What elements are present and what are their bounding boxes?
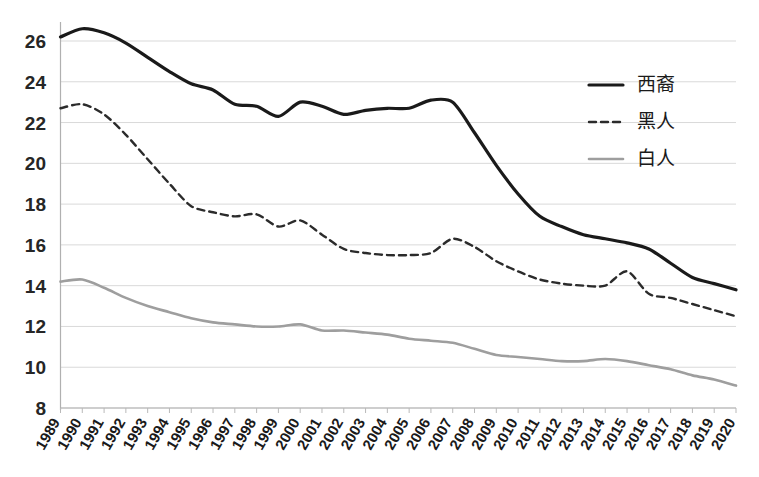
y-axis-tick-label: 8 (35, 398, 46, 419)
x-axis-tick-label: 2020 (707, 415, 738, 452)
series-line-2 (61, 279, 737, 385)
y-tick-labels: 8101214161820222426 (25, 31, 47, 419)
x-tick-marks (61, 408, 737, 413)
chart-legend: 西裔黑人白人 (589, 74, 675, 169)
y-axis-tick-label: 20 (25, 153, 46, 174)
y-axis-tick-label: 22 (25, 113, 46, 134)
x-tick-labels: 1989199019911992199319941995199619971998… (32, 414, 739, 452)
line-chart: 8101214161820222426 19891990199119921993… (0, 0, 759, 477)
legend-label-1: 黑人 (637, 111, 675, 132)
y-axis-tick-label: 12 (25, 316, 46, 337)
y-axis-tick-label: 14 (25, 276, 47, 297)
y-axis-tick-label: 16 (25, 235, 46, 256)
legend-label-2: 白人 (637, 148, 675, 169)
y-axis-tick-label: 24 (25, 72, 47, 93)
y-axis-tick-label: 18 (25, 194, 46, 215)
legend-label-0: 西裔 (637, 74, 675, 95)
gridlines (61, 41, 737, 408)
y-axis-tick-label: 26 (25, 31, 46, 52)
series-line-0 (61, 29, 737, 290)
y-axis-tick-label: 10 (25, 357, 46, 378)
chart-canvas: 8101214161820222426 19891990199119921993… (0, 0, 759, 477)
series-line-1 (61, 104, 737, 316)
